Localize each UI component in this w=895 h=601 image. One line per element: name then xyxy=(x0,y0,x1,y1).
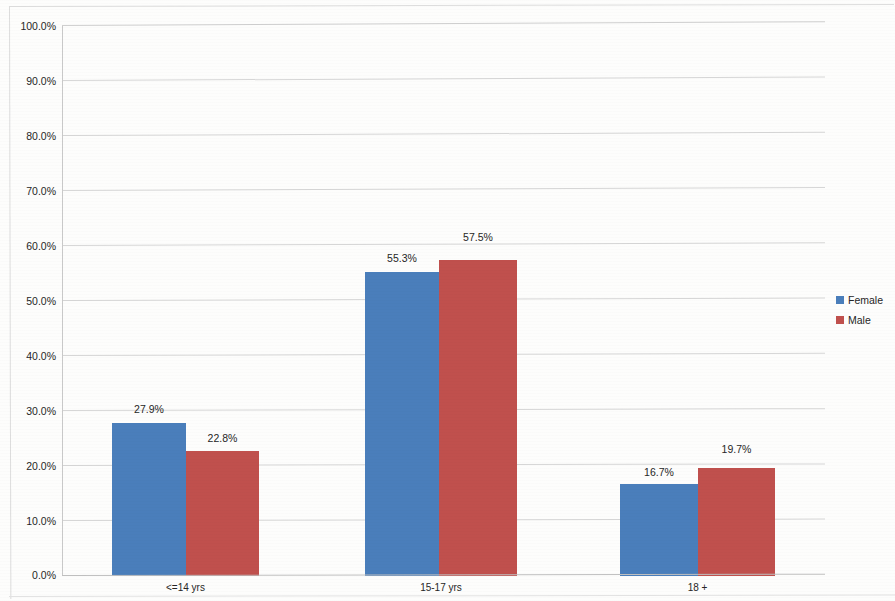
value-label-male-group1: 22.8% xyxy=(186,432,259,444)
bar-male-group1[interactable] xyxy=(186,451,259,576)
chart-legend: Female Male xyxy=(836,290,894,330)
legend-item-female[interactable]: Female xyxy=(836,290,894,310)
bars-layer xyxy=(0,0,895,576)
bar-male-group3[interactable] xyxy=(698,468,775,576)
legend-label-male: Male xyxy=(848,314,871,326)
value-label-female-group2: 55.3% xyxy=(365,252,439,264)
value-label-female-group1: 27.9% xyxy=(112,403,186,415)
chart-plot-wrapper: 100.0% 90.0% 80.0% 70.0% 60.0% 50.0% 40.… xyxy=(0,0,895,601)
bar-male-group2[interactable] xyxy=(439,260,517,576)
x-axis-category-label-group2: 15-17 yrs xyxy=(365,582,517,594)
bar-female-group3[interactable] xyxy=(620,484,698,576)
legend-item-male[interactable]: Male xyxy=(836,310,894,330)
bar-female-group1[interactable] xyxy=(112,423,186,576)
value-label-male-group3: 19.7% xyxy=(698,443,775,455)
x-axis-category-label-group3: 18 + xyxy=(620,582,775,594)
legend-swatch-female-icon xyxy=(836,296,844,304)
x-axis-category-label-group1: <=14 yrs xyxy=(112,582,259,594)
legend-label-female: Female xyxy=(848,294,883,306)
value-label-female-group3: 16.7% xyxy=(620,466,698,478)
value-label-male-group2: 57.5% xyxy=(439,231,517,243)
legend-swatch-male-icon xyxy=(836,316,844,324)
bar-female-group2[interactable] xyxy=(365,272,439,576)
